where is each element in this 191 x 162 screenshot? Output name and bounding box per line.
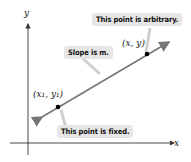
point-slope-diagram: x y (x₁, y₁) (x, y) This point is arbitr…	[0, 0, 191, 162]
leader-arbitrary	[146, 28, 150, 52]
fixed-callout: This point is fixed.	[57, 125, 133, 138]
arbitrary-callout: This point is arbitrary.	[92, 13, 182, 26]
fixed-point	[56, 105, 61, 110]
arbitrary-point-label: (x, y)	[122, 38, 145, 48]
x-axis-label: x	[174, 138, 179, 148]
arbitrary-point	[145, 52, 150, 57]
fixed-point-label: (x₁, y₁)	[33, 89, 63, 99]
y-axis-label: y	[24, 8, 29, 18]
slope-callout: Slope is m.	[64, 46, 113, 59]
